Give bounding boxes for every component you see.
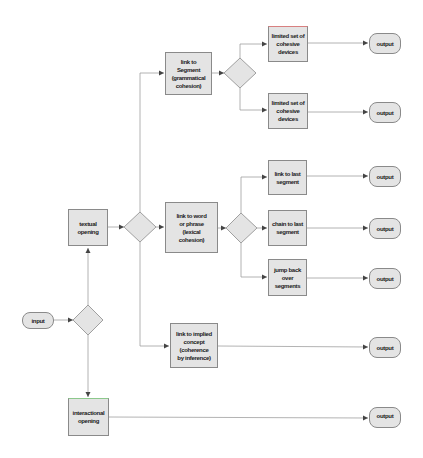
edge-implied-output6 xyxy=(218,346,368,347)
edge-decision2-segment xyxy=(140,73,164,212)
link-to-implied-concept-node: link to implied concept (coherence by in… xyxy=(170,323,218,368)
edge-decision3-limited1 xyxy=(240,44,267,58)
link-to-last-segment-node: link to last segment xyxy=(268,160,307,195)
edge-decision2-implied xyxy=(140,242,169,346)
edge-decision4-last xyxy=(241,177,267,213)
jump-back-node: jump back over segments xyxy=(268,259,307,296)
decision-diamond-1 xyxy=(73,305,103,335)
textual-opening-node: textual opening xyxy=(68,209,108,246)
decision-diamond-4 xyxy=(226,213,257,243)
decision-diamond-3 xyxy=(224,58,256,88)
link-to-word-node: link to word or phrase (lexical cohesion… xyxy=(165,202,218,253)
interactional-opening-node: interactional opening xyxy=(68,398,109,436)
output-node-5: output xyxy=(369,268,401,289)
input-node: input xyxy=(22,312,54,329)
decision-diamond-2 xyxy=(124,212,156,242)
link-to-segment-node: link to Segment (grammatical cohesion) xyxy=(165,52,212,95)
output-node-7: output xyxy=(369,407,401,428)
limited-set-node-2: limited set of cohesive devices xyxy=(268,93,308,129)
edge-decision3-limited2 xyxy=(240,88,267,110)
limited-set-node-1: limited set of cohesive devices xyxy=(268,26,308,62)
output-node-6: output xyxy=(369,337,401,358)
edge-interactional-output7 xyxy=(109,417,368,418)
output-node-2: output xyxy=(369,102,401,123)
output-node-1: output xyxy=(369,33,401,54)
chain-to-last-segment-node: chain to last segment xyxy=(268,210,307,246)
edge-decision4-jump xyxy=(241,243,267,277)
output-node-4: output xyxy=(369,218,401,239)
output-node-3: output xyxy=(369,166,401,187)
